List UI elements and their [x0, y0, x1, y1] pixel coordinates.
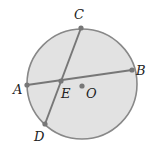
label-a: A — [12, 82, 22, 97]
point-o-icon — [79, 83, 84, 88]
point-b-icon — [129, 67, 134, 72]
label-o: O — [86, 86, 97, 101]
label-e: E — [60, 86, 71, 101]
label-d: D — [33, 129, 45, 144]
point-e-icon — [58, 78, 63, 83]
circle-chords-diagram: A B C D E O — [0, 0, 150, 149]
label-b: B — [135, 63, 146, 78]
point-d-icon — [42, 121, 47, 126]
label-c: C — [74, 7, 84, 22]
point-a-icon — [24, 82, 29, 87]
point-c-icon — [78, 25, 83, 30]
